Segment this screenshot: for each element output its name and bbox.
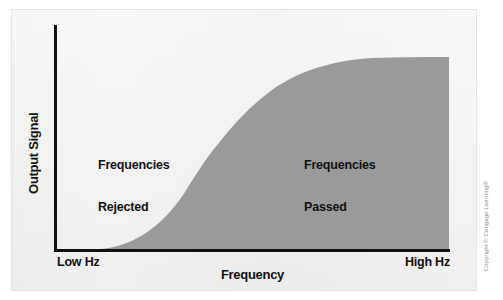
x-axis-tick-high: High Hz bbox=[330, 255, 450, 269]
x-axis-title: Frequency bbox=[55, 268, 450, 283]
annotation-rejected-line2: Rejected bbox=[98, 200, 169, 214]
annotation-passed-line2: Passed bbox=[304, 200, 375, 214]
figure-container: Output Signal Frequency Low Hz High Hz F… bbox=[0, 0, 503, 300]
annotation-passed-line1: Frequencies bbox=[304, 158, 375, 172]
annotation-frequencies-passed: Frequencies Passed bbox=[304, 130, 375, 242]
annotation-rejected-line1: Frequencies bbox=[98, 158, 169, 172]
y-axis-title: Output Signal bbox=[27, 83, 42, 223]
copyright-notice: Copyright © Cengage Learning® bbox=[483, 146, 489, 300]
x-axis-tick-low: Low Hz bbox=[57, 255, 100, 269]
annotation-frequencies-rejected: Frequencies Rejected bbox=[98, 130, 169, 242]
